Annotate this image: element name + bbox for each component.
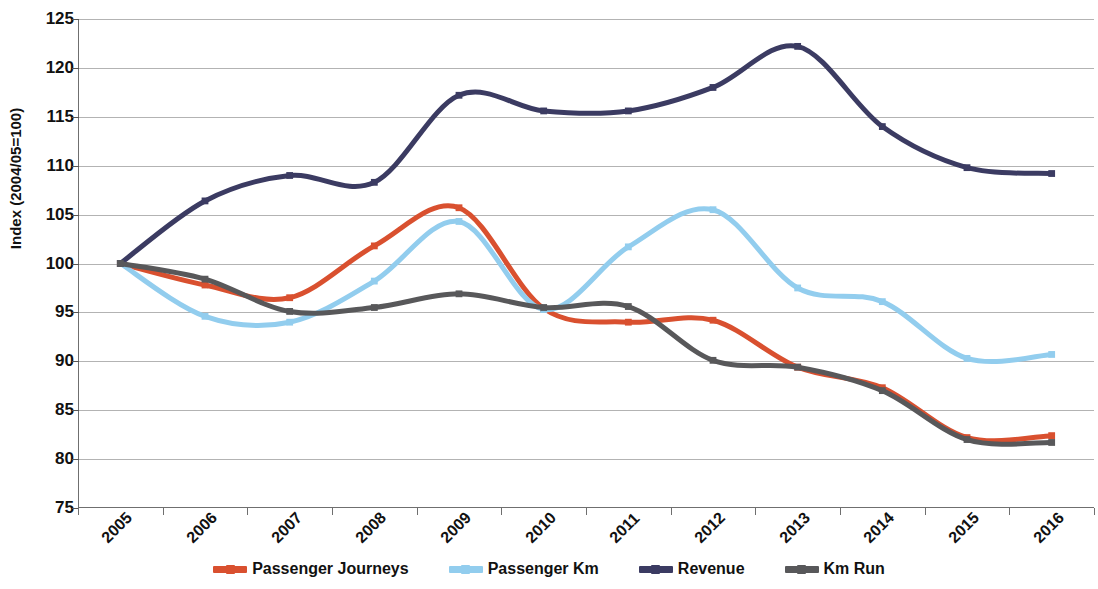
data-point-marker bbox=[879, 298, 886, 305]
data-point-marker bbox=[794, 285, 801, 292]
y-axis-tick-label: 110 bbox=[30, 156, 74, 176]
data-point-marker bbox=[202, 313, 209, 320]
x-axis-tick-label: 2007 bbox=[268, 509, 306, 547]
legend-item[interactable]: Km Run bbox=[785, 560, 885, 578]
x-axis-labels: 2005200620072008200920102011201220132014… bbox=[78, 508, 1094, 568]
x-axis-tick-label: 2012 bbox=[691, 509, 729, 547]
x-axis-tick-label: 2016 bbox=[1030, 509, 1068, 547]
legend-label: Km Run bbox=[824, 560, 885, 578]
data-point-marker bbox=[371, 278, 378, 285]
legend-color-swatch bbox=[213, 566, 247, 573]
series-line bbox=[120, 209, 1051, 362]
data-point-marker bbox=[879, 123, 886, 130]
y-axis-tick-labels: 7580859095100105110115120125 bbox=[22, 0, 74, 589]
x-axis-tick-label: 2011 bbox=[606, 509, 643, 546]
x-axis-tick-label: 2015 bbox=[945, 509, 983, 547]
data-point-marker bbox=[794, 43, 801, 50]
data-point-marker bbox=[710, 84, 717, 91]
series-lines bbox=[78, 19, 1094, 508]
y-axis-tick-label: 95 bbox=[30, 302, 74, 322]
data-point-marker bbox=[117, 260, 124, 267]
x-axis-tick-label: 2010 bbox=[522, 509, 560, 547]
data-point-marker bbox=[1048, 432, 1055, 439]
data-point-marker bbox=[710, 206, 717, 213]
x-axis-tick-label: 2009 bbox=[437, 509, 475, 547]
y-axis-title-text: Index (2004/05=100) bbox=[7, 29, 24, 329]
y-axis-tick-label: 105 bbox=[30, 205, 74, 225]
y-axis-tick-label: 120 bbox=[30, 58, 74, 78]
data-point-marker bbox=[286, 172, 293, 179]
data-point-marker bbox=[456, 290, 463, 297]
data-point-marker bbox=[371, 179, 378, 186]
x-axis-tick-label: 2006 bbox=[183, 509, 221, 547]
y-axis-tick-label: 90 bbox=[30, 351, 74, 371]
series-line bbox=[120, 264, 1051, 445]
x-axis-tick-label: 2008 bbox=[352, 509, 390, 547]
chart-legend: Passenger JourneysPassenger KmRevenueKm … bbox=[0, 560, 1098, 578]
data-point-marker bbox=[202, 276, 209, 283]
data-point-marker bbox=[1048, 170, 1055, 177]
x-axis-tick-label: 2013 bbox=[776, 509, 814, 547]
series-passenger-km bbox=[117, 206, 1055, 361]
y-axis-tick-label: 80 bbox=[30, 449, 74, 469]
data-point-marker bbox=[202, 198, 209, 205]
data-point-marker bbox=[625, 303, 632, 310]
legend-item[interactable]: Passenger Km bbox=[449, 560, 599, 578]
legend-color-swatch bbox=[449, 566, 483, 573]
data-point-marker bbox=[540, 108, 547, 115]
data-point-marker bbox=[371, 243, 378, 250]
data-point-marker bbox=[625, 243, 632, 250]
legend-color-swatch bbox=[785, 566, 819, 573]
data-point-marker bbox=[456, 218, 463, 225]
legend-item[interactable]: Passenger Journeys bbox=[213, 560, 409, 578]
data-point-marker bbox=[710, 357, 717, 364]
data-point-marker bbox=[456, 204, 463, 211]
x-axis-tickmark bbox=[1094, 508, 1095, 515]
data-point-marker bbox=[1048, 439, 1055, 446]
data-point-marker bbox=[286, 294, 293, 301]
data-point-marker bbox=[371, 304, 378, 311]
data-point-marker bbox=[286, 308, 293, 315]
y-axis-title: Index (2004/05=100) bbox=[7, 166, 24, 192]
data-point-marker bbox=[1048, 351, 1055, 358]
x-axis-tick-label: 2014 bbox=[860, 509, 898, 547]
line-chart: Index (2004/05=100) 75808590951001051101… bbox=[0, 0, 1098, 589]
y-axis-tick-label: 85 bbox=[30, 400, 74, 420]
legend-color-swatch bbox=[639, 566, 673, 573]
series-revenue bbox=[117, 43, 1055, 267]
data-point-marker bbox=[879, 387, 886, 394]
data-point-marker bbox=[202, 282, 209, 289]
data-point-marker bbox=[964, 355, 971, 362]
data-point-marker bbox=[710, 317, 717, 324]
plot-area bbox=[78, 19, 1094, 508]
y-axis-tick-label: 115 bbox=[30, 107, 74, 127]
legend-label: Revenue bbox=[678, 560, 745, 578]
legend-label: Passenger Km bbox=[488, 560, 599, 578]
y-axis-tick-label: 125 bbox=[30, 9, 74, 29]
series-line bbox=[120, 46, 1051, 264]
y-axis-tick-label: 100 bbox=[30, 254, 74, 274]
y-axis-tick-label: 75 bbox=[30, 498, 74, 518]
data-point-marker bbox=[794, 364, 801, 371]
data-point-marker bbox=[625, 108, 632, 115]
data-point-marker bbox=[964, 436, 971, 443]
data-point-marker bbox=[540, 304, 547, 311]
data-point-marker bbox=[286, 319, 293, 326]
x-axis-tick-label: 2005 bbox=[98, 509, 136, 547]
data-point-marker bbox=[964, 164, 971, 171]
legend-label: Passenger Journeys bbox=[252, 560, 409, 578]
data-point-marker bbox=[456, 92, 463, 99]
legend-item[interactable]: Revenue bbox=[639, 560, 745, 578]
data-point-marker bbox=[625, 319, 632, 326]
